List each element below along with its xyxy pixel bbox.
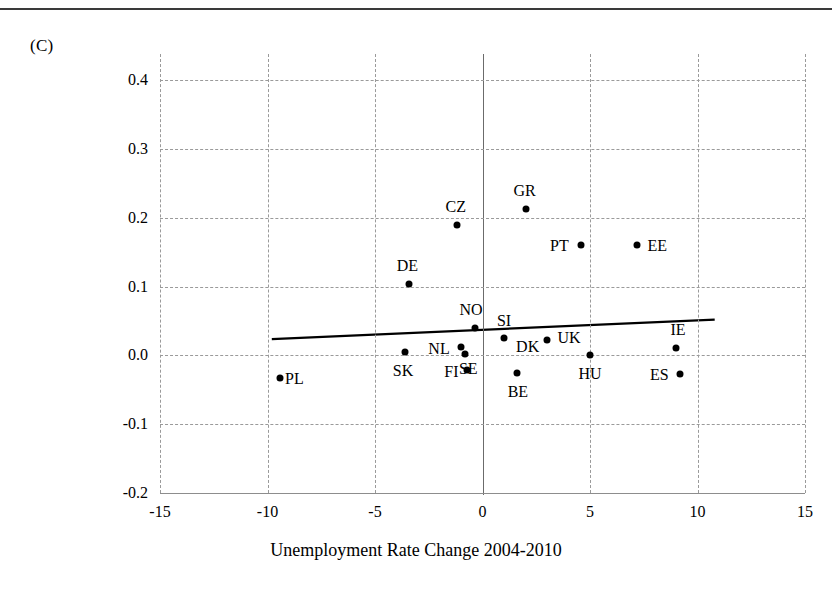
y-tick-label: 0.2 — [128, 209, 148, 227]
gridline-y--0_2 — [160, 493, 805, 494]
x-tick-label: -5 — [368, 503, 381, 521]
y-tick-label: 0.1 — [128, 278, 148, 296]
y-tick-label: 0.4 — [128, 71, 148, 89]
point-label-fi: FI — [444, 363, 458, 381]
x-tick-label: -10 — [257, 503, 278, 521]
point-label-pt: PT — [550, 237, 569, 255]
point-label-nl: NL — [428, 340, 449, 358]
point-label-gr: GR — [513, 182, 535, 200]
point-label-de: DE — [397, 257, 418, 275]
panel-label: (C) — [30, 36, 54, 56]
point-label-sk: SK — [393, 362, 413, 380]
x-tick-label: -15 — [149, 503, 170, 521]
data-point-hu — [587, 352, 594, 359]
point-label-es: ES — [650, 366, 669, 384]
data-point-be — [513, 369, 520, 376]
y-axis-title: Net change in Work-Family Conflict — [0, 0, 1, 461]
gridline-y-0_1 — [160, 287, 805, 288]
point-label-ie: IE — [670, 321, 685, 339]
gridline-y--0_1 — [160, 424, 805, 425]
data-point-sk — [402, 348, 409, 355]
point-label-no: NO — [459, 301, 482, 319]
point-label-si: SI — [497, 312, 511, 330]
gridline-y-0_2 — [160, 218, 805, 219]
page-top-rule — [0, 8, 832, 10]
x-tick-label: 10 — [690, 503, 706, 521]
point-label-dk: DK — [516, 338, 539, 356]
data-point-es — [677, 370, 684, 377]
scatter-plot-area: -15-10-50510150.40.30.20.10.0-0.1-0.2PLS… — [160, 80, 805, 493]
point-label-hu: HU — [578, 365, 601, 383]
gridline-x-5 — [590, 54, 591, 493]
x-axis-title: Unemployment Rate Change 2004-2010 — [0, 540, 832, 561]
data-point-fi — [464, 367, 471, 374]
y-tick-label: -0.1 — [123, 415, 148, 433]
x-tick-label: 15 — [797, 503, 813, 521]
x-tick-label: 0 — [479, 503, 487, 521]
gridline-y-0_4 — [160, 80, 805, 81]
point-label-ee: EE — [648, 237, 668, 255]
x-tick-label: 5 — [586, 503, 594, 521]
data-point-si — [501, 335, 508, 342]
point-label-be: BE — [508, 383, 528, 401]
data-point-no — [471, 324, 478, 331]
y-tick-label: 0.0 — [128, 346, 148, 364]
data-point-ee — [634, 242, 641, 249]
gridline-y-0_3 — [160, 149, 805, 150]
data-point-de — [406, 281, 413, 288]
data-point-nl — [458, 344, 465, 351]
point-label-cz: CZ — [445, 198, 465, 216]
gridline-x--10 — [268, 54, 269, 493]
data-point-cz — [453, 221, 460, 228]
point-label-uk: UK — [557, 329, 580, 347]
point-label-pl: PL — [285, 370, 304, 388]
y-tick-label: -0.2 — [123, 484, 148, 502]
data-point-pt — [578, 242, 585, 249]
data-point-pl — [277, 375, 284, 382]
y-tick-label: 0.3 — [128, 140, 148, 158]
data-point-ie — [673, 345, 680, 352]
data-point-se — [462, 350, 469, 357]
gridline-y-0 — [160, 355, 805, 356]
data-point-gr — [522, 205, 529, 212]
gridline-x-15 — [805, 54, 806, 493]
gridline-x-10 — [698, 54, 699, 493]
gridline-x--15 — [160, 54, 161, 493]
data-point-uk — [544, 337, 551, 344]
gridline-x--5 — [375, 54, 376, 493]
gridline-x-0 — [483, 54, 484, 495]
